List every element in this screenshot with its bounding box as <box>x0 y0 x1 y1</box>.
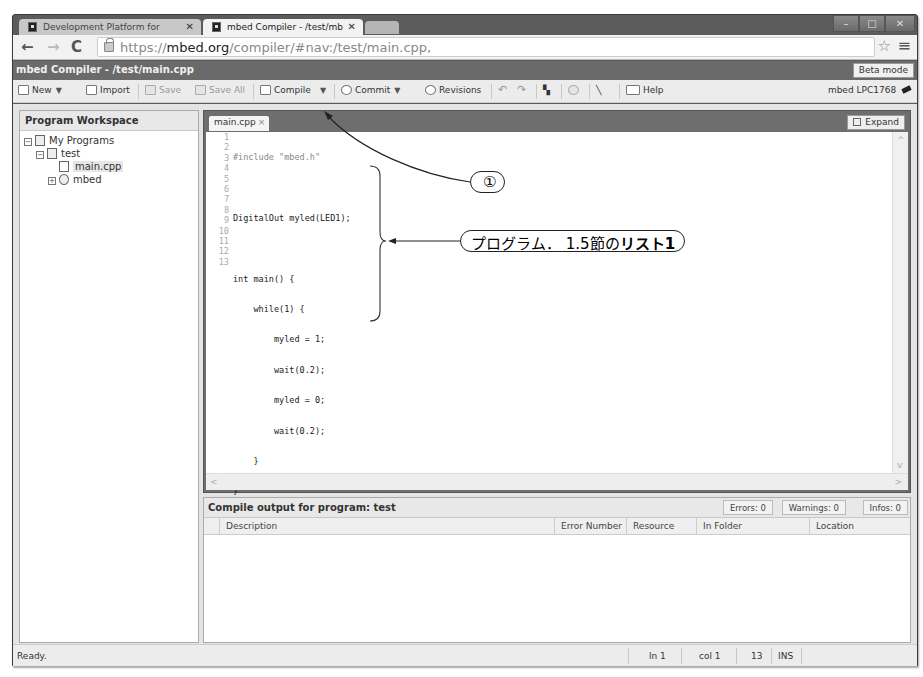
callout-2-text: プログラム． 1.5節の <box>471 235 620 253</box>
annotation-lines <box>0 0 923 677</box>
tab-close-icon[interactable]: ✕ <box>348 21 356 32</box>
callout-2-bold-text: リスト1 <box>620 235 675 253</box>
callout-2: プログラム． 1.5節のリスト1 <box>460 230 685 252</box>
callout-1-text: ① <box>483 173 496 191</box>
tab-mbed-compiler[interactable]: mbed Compiler - /test/mb ✕ <box>203 19 363 36</box>
callout-1: ① <box>470 171 505 193</box>
tab-title: mbed Compiler - /test/mb <box>227 22 343 32</box>
mbed-favicon-icon <box>212 22 221 32</box>
